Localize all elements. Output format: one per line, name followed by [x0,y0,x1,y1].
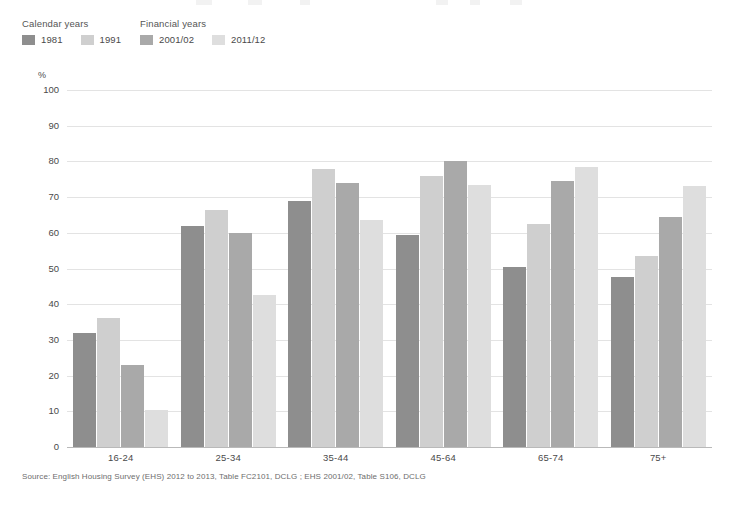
y-axis-tick-label: 90 [31,120,59,131]
bar[interactable] [253,295,276,447]
y-axis-tick-label: 50 [31,263,59,274]
bar-group [282,90,390,447]
source-note: Source: English Housing Survey (EHS) 201… [22,472,426,481]
bar[interactable] [635,256,658,447]
bar-group [605,90,713,447]
bar[interactable] [444,161,467,447]
x-axis-tick-label: 25-34 [175,452,283,463]
y-axis-unit-label: % [38,70,46,80]
bar[interactable] [360,220,383,447]
bar[interactable] [396,235,419,447]
x-axis-tick-label: 65-74 [497,452,605,463]
y-axis-tick-label: 30 [31,334,59,345]
bar[interactable] [205,210,228,447]
bar[interactable] [73,333,96,447]
y-axis-tick-labels: 1009080706050403020100 [29,90,59,447]
y-axis-tick-label: 40 [31,298,59,309]
bar[interactable] [611,277,634,447]
bar[interactable] [121,365,144,447]
bar-group [175,90,283,447]
gridline [67,447,712,448]
bar-group [497,90,605,447]
bar[interactable] [145,410,168,447]
y-axis-tick-label: 80 [31,155,59,166]
x-axis-tick-label: 45-64 [390,452,498,463]
bar[interactable] [312,169,335,447]
y-axis-tick-label: 70 [31,191,59,202]
x-axis-tick-label: 75+ [605,452,713,463]
y-axis-tick-label: 0 [31,441,59,452]
bar-group [390,90,498,447]
bar[interactable] [683,186,706,447]
bar-chart: % 1009080706050403020100 16-2425-3435-44… [0,0,736,510]
y-axis-tick-label: 20 [31,370,59,381]
bar[interactable] [336,183,359,447]
x-axis-tick-label: 16-24 [67,452,175,463]
bar[interactable] [97,318,120,447]
x-axis-tick-labels: 16-2425-3435-4445-6465-7475+ [67,452,712,463]
bar[interactable] [468,185,491,447]
bar[interactable] [659,217,682,447]
bar[interactable] [503,267,526,447]
bar[interactable] [181,226,204,447]
y-axis-tick-label: 10 [31,405,59,416]
bar-groups [67,90,712,447]
bar[interactable] [575,167,598,447]
bar[interactable] [420,176,443,447]
x-axis-tick-label: 35-44 [282,452,390,463]
bar[interactable] [527,224,550,447]
bar[interactable] [551,181,574,447]
bar[interactable] [229,233,252,447]
y-axis-tick-label: 100 [31,84,59,95]
bar-group [67,90,175,447]
bar[interactable] [288,201,311,447]
plot-area [67,90,712,447]
y-axis-tick-label: 60 [31,227,59,238]
